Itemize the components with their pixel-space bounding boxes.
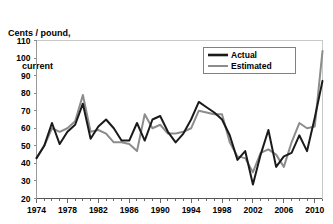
- x-tick-label: 1990: [151, 205, 170, 215]
- y-tick-label: 60: [21, 123, 31, 133]
- y-tick-label: 30: [21, 176, 31, 186]
- x-axis-tick-labels: 1974197819821986199019941998200220062010: [27, 205, 324, 215]
- y-tick-label: 80: [21, 88, 31, 98]
- y-tick-label: 40: [21, 158, 31, 168]
- y-tick-label: 50: [21, 141, 31, 151]
- x-axis-tick-marks: [37, 199, 323, 203]
- legend-label-actual: Actual: [231, 50, 257, 60]
- x-tick-label: 1982: [89, 205, 108, 215]
- x-tick-label: 2010: [305, 205, 324, 215]
- x-tick-label: 2006: [274, 205, 293, 215]
- chart-container: Cents / pound, current 11010090807060504…: [0, 0, 333, 224]
- x-tick-label: 1994: [182, 205, 201, 215]
- x-tick-label: 1974: [27, 205, 46, 215]
- x-tick-label: 2002: [243, 205, 262, 215]
- y-tick-label: 20: [21, 194, 31, 204]
- line-chart-plot: 1101009080706050403020 19741978198219861…: [0, 0, 333, 224]
- legend-label-estimated: Estimated: [231, 61, 272, 71]
- y-tick-label: 100: [16, 53, 30, 63]
- y-axis-tick-labels: 1101009080706050403020: [16, 36, 30, 204]
- x-tick-label: 1978: [58, 205, 77, 215]
- y-tick-label: 90: [21, 71, 31, 81]
- x-tick-label: 1998: [213, 205, 232, 215]
- y-tick-label: 110: [17, 36, 31, 46]
- chart-legend: Actual Estimated: [203, 47, 295, 73]
- x-tick-label: 1986: [120, 205, 139, 215]
- y-tick-label: 70: [21, 106, 31, 116]
